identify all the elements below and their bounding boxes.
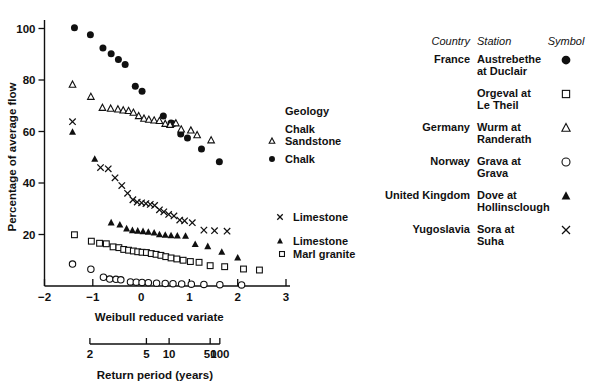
legend-header-station: Station [477,35,511,47]
series-grava-at-grava [69,261,244,288]
legend-symbol-open-triangle [562,124,570,132]
data-point [211,227,217,233]
data-point [132,83,139,90]
legend-header-symbol: Symbol [548,35,585,47]
data-point [257,267,263,273]
data-point [88,238,94,244]
x-axis-tick-label: 3 [283,291,289,303]
annotation-label: Sandstone [285,135,341,147]
data-point [153,280,159,286]
legend-country: United Kingdom [385,189,470,201]
data-point [103,241,109,247]
data-point [69,119,75,125]
legend-symbol-filled-triangle [562,191,571,199]
legend-station-line1: Orgeval at [477,87,531,99]
data-point [100,274,106,280]
legend-station-line1: Austrebethe [477,53,541,65]
series-austrebethe-at-duclair [71,24,223,165]
data-point [140,228,147,235]
data-point [218,248,225,255]
data-point [182,232,189,239]
legend-row[interactable]: Orgeval atLe Theil [477,87,570,111]
data-point [181,218,187,224]
x-axis-tick-label: 0 [138,291,144,303]
data-point [107,105,114,111]
data-point [170,280,176,286]
legend-symbol-x-mark [562,226,570,234]
legend-station-line2: Hollinsclough [477,201,550,213]
data-point [97,164,103,170]
data-point [69,261,75,267]
data-point [88,266,94,272]
legend-row[interactable]: GermanyWurm atRanderath [422,121,570,145]
data-point [178,281,184,287]
series-sora-at-suha [69,119,230,235]
data-point [188,281,194,287]
legend-row[interactable]: FranceAustrebetheat Duclair [434,53,570,77]
data-point [187,259,193,265]
x-axis-tick-label: 1 [186,291,193,303]
annotation-label: Geology [285,105,330,117]
data-point [174,256,180,262]
weibull-reduced-variate-scatter-chart: 20406080100−2−10123Percentage of average… [0,0,603,390]
y-axis-tick-label: 20 [23,229,36,241]
legend-row[interactable]: United KingdomDove atHollinsclough [385,189,570,213]
y-axis-tick-label: 40 [23,177,36,189]
data-point [174,232,181,239]
data-point [99,45,106,52]
data-point [162,231,169,238]
y-axis-tick-label: 100 [16,23,35,35]
annotation-marker [280,252,285,257]
data-point [162,280,168,286]
legend-row[interactable]: YugoslaviaSora atSuha [413,223,570,247]
legend-station-line2: Le Theil [477,99,519,111]
legend-station-line1: Dove at [477,189,517,201]
data-point [107,276,113,282]
annotation-label: Chalk [285,153,316,165]
legend-header-country: Country [431,35,471,47]
annotation-label: Limestone [293,211,348,223]
data-point [204,243,211,250]
data-point [217,282,223,288]
data-point [71,24,78,31]
x-axis-tick-label: 2 [234,291,240,303]
data-point [116,221,123,228]
legend-station-line2: Randerath [477,133,532,145]
return-period-tick-label: 2 [87,348,93,360]
data-point [198,146,205,153]
annotation-label: Chalk [285,123,316,135]
data-point [184,134,191,141]
annotation-marker [269,138,275,143]
data-point [192,240,199,247]
annotation-marker [277,214,282,219]
data-point [110,244,116,250]
data-point [129,227,136,234]
data-point [207,263,213,269]
data-point [118,277,124,283]
data-point [224,228,230,234]
annotation-marker [269,156,275,162]
legend-country: France [434,53,470,65]
data-point [122,61,129,68]
data-point [145,279,151,285]
y-axis-tick-label: 60 [23,126,36,138]
data-point [72,232,78,238]
data-point [108,219,115,226]
data-point [139,88,146,95]
x-axis-tick-label: −2 [38,291,51,303]
legend-row[interactable]: NorwayGrava atGrava [430,155,570,179]
data-point [171,213,177,219]
data-point [234,254,241,261]
legend-station-line2: at Duclair [477,65,528,77]
data-point [201,281,207,287]
legend-station-line1: Grava at [477,155,521,167]
data-point [119,182,125,188]
data-point [241,266,247,272]
data-point [97,240,103,246]
data-point [196,259,202,265]
legend-station-line2: Grava [477,167,509,179]
return-period-axis-title: Return period (years) [97,369,213,381]
data-point [168,255,174,261]
x-axis-tick-label: −1 [86,291,100,303]
x-axis-title: Weibull reduced variate [95,311,224,323]
